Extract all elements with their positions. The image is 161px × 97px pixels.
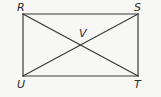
- vertex-label-v: V: [79, 28, 87, 39]
- vertex-label-r: R: [17, 2, 25, 13]
- vertex-label-u: U: [17, 79, 25, 90]
- vertex-label-s: S: [134, 2, 141, 13]
- geometry-figure: R S T U V: [0, 0, 161, 97]
- vertex-label-t: T: [134, 79, 141, 90]
